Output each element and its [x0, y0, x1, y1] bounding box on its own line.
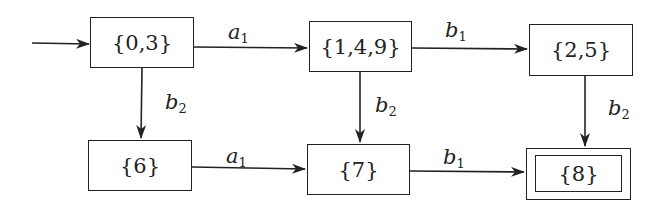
edge-symbol: b [375, 93, 388, 117]
state-node-0-3: {0,3} [90, 17, 194, 68]
edge-n6-n7 [192, 167, 305, 169]
edge-label-n149-n7: b2 [375, 95, 397, 118]
state-label: {8} [558, 162, 598, 186]
edge-symbol: a [226, 144, 239, 168]
edge-label-n7-n8: b1 [443, 147, 465, 170]
edge-symbol: b [445, 18, 458, 42]
edge-subscript: 1 [456, 156, 464, 171]
edge-subscript: 1 [239, 155, 247, 170]
state-node-1-4-9: {1,4,9} [309, 21, 412, 72]
edge-subscript: 2 [621, 107, 629, 122]
edge-subscript: 2 [388, 104, 396, 119]
state-label: {6} [120, 154, 160, 178]
edge-n03-n6 [141, 68, 142, 138]
state-node-2-5: {2,5} [529, 24, 633, 76]
state-label: {2,5} [551, 38, 611, 62]
state-label: {1,4,9} [320, 35, 400, 59]
initial-arrow [32, 43, 89, 44]
edge-label-n6-n7: a1 [226, 146, 247, 169]
edge-symbol: b [443, 145, 456, 169]
edge-subscript: 1 [241, 31, 249, 46]
edge-symbol: b [608, 96, 621, 120]
edge-label-n03-n149: a1 [228, 22, 249, 45]
edge-n03-n149 [194, 47, 307, 48]
state-label: {7} [338, 158, 378, 182]
state-node-6: {6} [88, 140, 192, 191]
edge-label-n149-n25: b1 [445, 20, 467, 43]
edge-subscript: 1 [458, 29, 466, 44]
edge-n149-n25 [412, 48, 527, 49]
edge-n7-n8 [410, 171, 524, 172]
edge-symbol: a [228, 20, 241, 44]
state-node-7: {7} [307, 144, 410, 195]
state-node-8-accepting: {8} [526, 148, 631, 200]
edge-symbol: b [165, 90, 178, 114]
state-label: {0,3} [112, 31, 172, 55]
edge-label-n03-n6: b2 [165, 92, 187, 115]
edge-subscript: 2 [178, 101, 186, 116]
edge-label-n25-n8: b2 [608, 98, 630, 121]
